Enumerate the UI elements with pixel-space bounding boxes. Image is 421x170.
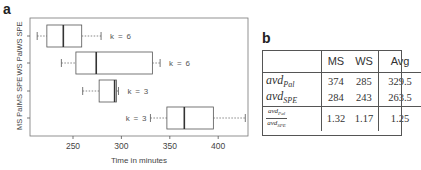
box bbox=[47, 25, 82, 47]
cell-ws: 243 bbox=[350, 89, 379, 106]
ratio-table: MS WS Avg avdPal 374 285 329.5 avdSPE 28… bbox=[262, 50, 421, 131]
table-header-ws: WS bbox=[350, 50, 379, 73]
x-tick-label: 250 bbox=[66, 141, 80, 151]
k-annotation: k = 3 bbox=[126, 114, 147, 123]
cell-ms: 284 bbox=[321, 89, 350, 106]
cell-avg: 329.5 bbox=[379, 73, 421, 90]
box bbox=[167, 107, 213, 129]
y-category-label: WS SPE bbox=[15, 21, 24, 50]
cell-avg: 1.25 bbox=[379, 106, 421, 130]
x-tick-label: 350 bbox=[163, 141, 177, 151]
row-label-avd-spe: avdSPE bbox=[262, 89, 321, 106]
y-category-label: WS Pal bbox=[15, 50, 24, 75]
cell-avg: 263.5 bbox=[379, 89, 421, 106]
fraction: avdPal avdSPE bbox=[266, 107, 287, 131]
label-base: avd bbox=[266, 73, 283, 87]
table-header-ms: MS bbox=[321, 50, 350, 73]
fraction-numerator: avdPal bbox=[266, 107, 287, 119]
k-annotation: k = 6 bbox=[169, 59, 190, 68]
label-sub: SPE bbox=[283, 97, 297, 106]
cell-ws: 285 bbox=[350, 73, 379, 90]
table-header-blank bbox=[262, 50, 321, 73]
label-base: avd bbox=[266, 89, 283, 103]
box bbox=[76, 52, 152, 74]
k-annotation: k = 6 bbox=[110, 32, 131, 41]
panel-b-label: b bbox=[262, 30, 271, 46]
table-row: avdPal avdSPE 1.32 1.17 1.25 bbox=[262, 106, 421, 130]
y-category-label: MS Pal bbox=[15, 106, 24, 131]
cell-ms: 1.32 bbox=[321, 106, 350, 130]
table-header-row: MS WS Avg bbox=[262, 50, 421, 73]
x-axis-label: Time in minutes bbox=[111, 156, 167, 165]
fraction-denominator: avdSPE bbox=[267, 119, 286, 127]
y-category-label: MS SPE bbox=[15, 77, 24, 105]
boxplot-chart: 250300350400Time in minutesWS SPEk = 6WS… bbox=[0, 0, 262, 170]
cell-ms: 374 bbox=[321, 73, 350, 90]
row-label-avd-pal: avdPal bbox=[262, 73, 321, 90]
table-row: avdPal 374 285 329.5 bbox=[262, 73, 421, 90]
label-sub: Pal bbox=[283, 80, 294, 89]
table-header-avg: Avg bbox=[379, 50, 421, 73]
table-row: avdSPE 284 243 263.5 bbox=[262, 89, 421, 106]
x-tick-label: 400 bbox=[211, 141, 225, 151]
x-tick-label: 300 bbox=[114, 141, 128, 151]
k-annotation: k = 3 bbox=[127, 87, 148, 96]
row-label-ratio: avdPal avdSPE bbox=[262, 106, 321, 130]
cell-ws: 1.17 bbox=[350, 106, 379, 130]
